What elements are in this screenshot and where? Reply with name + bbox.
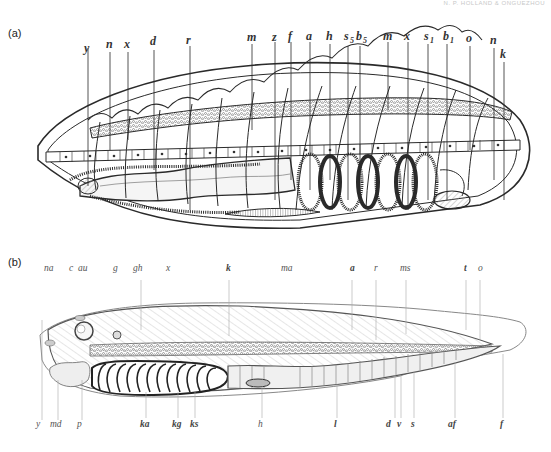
label-ka: ka xyxy=(140,419,150,429)
label-a: a xyxy=(350,263,355,273)
otic-vesicle xyxy=(113,331,121,339)
label-b1: b1 xyxy=(443,29,454,45)
mouth-structure xyxy=(434,191,470,209)
label-d: d xyxy=(386,419,391,429)
label-x2: x xyxy=(403,29,410,43)
label-y: y xyxy=(82,41,90,55)
svg-text:5: 5 xyxy=(350,36,354,45)
label-ms: ms xyxy=(400,263,411,273)
label-n: n xyxy=(106,37,113,51)
svg-text:s: s xyxy=(423,29,429,43)
label-o: o xyxy=(466,31,472,45)
anatomical-figure: y n x d r m z f a h s5 b5 m x s1 b1 o n … xyxy=(0,0,551,452)
label-x: x xyxy=(165,263,171,273)
jaw xyxy=(50,362,90,387)
label-s5: s5 xyxy=(343,29,354,45)
svg-text:5: 5 xyxy=(363,36,367,45)
label-k: k xyxy=(500,47,506,61)
label-y: y xyxy=(35,419,41,429)
label-ma: ma xyxy=(281,263,293,273)
label-o: o xyxy=(478,263,483,273)
panel-a-drawing: y n x d r m z f a h s5 b5 m x s1 b1 o n … xyxy=(38,25,530,228)
panel-b-top-labels: na c au g gh x k ma a r ms t o xyxy=(44,263,483,273)
label-m2: m xyxy=(383,29,392,43)
label-t: t xyxy=(464,263,467,273)
svg-text:1: 1 xyxy=(450,36,454,45)
label-b5: b5 xyxy=(356,29,367,45)
panel-a-labels: y n x d r m z f a h s5 b5 m x s1 b1 o n … xyxy=(82,29,506,61)
label-md: md xyxy=(50,419,62,429)
svg-text:b: b xyxy=(443,29,449,43)
panel-b-drawing: na c au g gh x k ma a r ms t o y md p ka… xyxy=(35,263,526,429)
label-g: g xyxy=(113,263,118,273)
label-p: p xyxy=(76,419,82,429)
svg-text:b: b xyxy=(356,29,362,43)
label-d: d xyxy=(150,34,157,48)
panel-b-bottom-labels: y md p ka kg ks h l d v s af f xyxy=(35,419,504,429)
label-na: na xyxy=(44,263,54,273)
label-f: f xyxy=(288,29,293,43)
label-k: k xyxy=(226,263,231,273)
label-h: h xyxy=(326,29,333,43)
liver-diverticulum xyxy=(246,379,270,387)
label-v: v xyxy=(397,419,402,429)
label-ks: ks xyxy=(190,419,199,429)
label-f: f xyxy=(500,419,504,429)
label-af: af xyxy=(448,419,457,429)
label-z: z xyxy=(271,30,277,44)
label-r: r xyxy=(186,33,191,47)
label-x: x xyxy=(123,37,130,51)
svg-text:1: 1 xyxy=(430,36,434,45)
label-r: r xyxy=(374,263,378,273)
label-n2: n xyxy=(490,33,497,47)
label-h: h xyxy=(258,419,263,429)
label-m: m xyxy=(247,30,256,44)
label-gh: gh xyxy=(133,263,143,273)
label-c: c xyxy=(69,263,74,273)
label-kg: kg xyxy=(172,419,182,429)
label-s: s xyxy=(410,419,415,429)
label-s1: s1 xyxy=(423,29,434,45)
svg-text:s: s xyxy=(343,29,349,43)
label-a: a xyxy=(306,29,312,43)
label-au: au xyxy=(78,263,88,273)
label-l: l xyxy=(334,419,337,429)
